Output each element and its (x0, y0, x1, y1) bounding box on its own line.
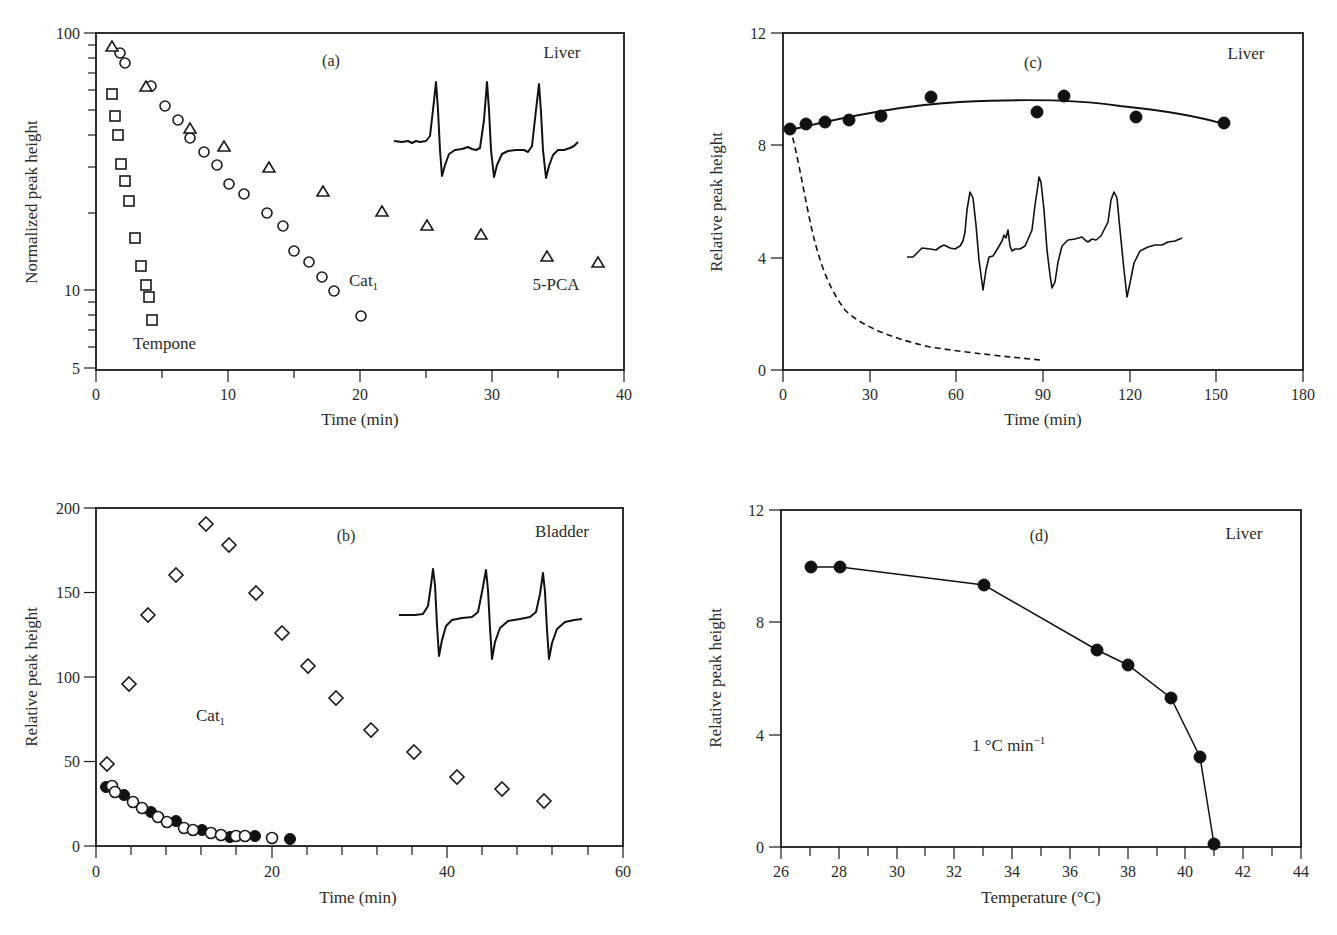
panel-d-xtick-38: 38 (1120, 863, 1136, 880)
cat1-label-a: Cat1 (349, 271, 378, 292)
panel-b-tissue-label: Bladder (535, 522, 589, 541)
panel-b-ytick-0: 0 (72, 838, 80, 855)
panel-d-xtick-36: 36 (1062, 863, 1078, 880)
panel-c-label: (c) (1024, 54, 1042, 72)
panel-d-xtick-32: 32 (946, 863, 962, 880)
panel-d-frame (781, 510, 1301, 847)
panel-b-ytick-150: 150 (56, 584, 80, 601)
panel-d-data-points (805, 561, 1220, 850)
panel-d-x-ticks (781, 847, 1301, 859)
panel-b-xtick-40: 40 (439, 863, 455, 880)
esr-spectrum-inset-b (399, 569, 582, 659)
panel-a-x-ticks (96, 370, 624, 382)
panel-d-xtick-44: 44 (1293, 863, 1309, 880)
pca-series (106, 41, 604, 267)
panel-c-ytick-12: 12 (750, 25, 766, 42)
panel-b-ytick-100: 100 (56, 669, 80, 686)
panel-d-y-axis-title: Relative peak height (706, 608, 725, 748)
panel-a-label: (a) (322, 52, 340, 70)
panel-b-ytick-50: 50 (64, 753, 80, 770)
panel-a-ytick-5: 5 (72, 360, 80, 377)
cat1-label-b: Cat1 (196, 706, 225, 727)
panel-c-fit-curve (790, 100, 1224, 130)
panel-c-data-points (784, 90, 1230, 135)
panel-d-xtick-42: 42 (1235, 863, 1251, 880)
panel-a-xtick-20: 20 (352, 386, 368, 403)
panel-a-xtick-10: 10 (220, 386, 236, 403)
panel-b-xtick-20: 20 (264, 863, 280, 880)
panel-a-ytick-100: 100 (56, 25, 80, 42)
panel-a-ytick-10: 10 (64, 282, 80, 299)
panel-a-xtick-0: 0 (92, 386, 100, 403)
panel-c-xtick-90: 90 (1035, 386, 1051, 403)
tempone-label: Tempone (133, 334, 196, 353)
panel-d: 12 8 4 0 26 28 30 32 34 36 38 40 42 44 T… (706, 502, 1309, 907)
panel-d-y-ticks (769, 510, 781, 847)
panel-c-xtick-120: 120 (1118, 386, 1142, 403)
panel-a-x-axis-title: Time (min) (321, 410, 398, 429)
panel-c: 12 8 4 0 0 30 60 90 120 150 180 Time (mi… (707, 25, 1315, 429)
panel-c-xtick-30: 30 (862, 386, 878, 403)
panel-a-y-ticks (84, 33, 96, 368)
panel-c-xtick-60: 60 (948, 386, 964, 403)
panel-d-ytick-4: 4 (756, 727, 764, 744)
panel-d-label: (d) (1030, 527, 1049, 545)
panel-b-y-axis-title: Relative peak height (22, 607, 41, 747)
panel-d-connecting-line (811, 567, 1214, 844)
panel-d-xtick-26: 26 (773, 863, 789, 880)
panel-d-xtick-34: 34 (1004, 863, 1020, 880)
panel-b-xtick-60: 60 (615, 863, 631, 880)
panel-c-y-ticks (771, 33, 783, 370)
panel-d-xtick-40: 40 (1177, 863, 1193, 880)
panel-a-tissue-label: Liver (544, 43, 581, 62)
panel-c-xtick-0: 0 (779, 386, 787, 403)
panel-a: 100 10 5 0 10 20 30 40 Time (min) Normal… (22, 25, 632, 429)
panel-b-x-ticks (96, 846, 623, 858)
diamond-series-b (100, 517, 551, 808)
panel-b-y-ticks (84, 508, 96, 846)
panel-c-x-axis-title: Time (min) (1004, 410, 1081, 429)
panel-d-tissue-label: Liver (1226, 524, 1263, 543)
panel-c-ytick-8: 8 (758, 137, 766, 154)
panel-a-xtick-30: 30 (484, 386, 500, 403)
panel-d-ytick-0: 0 (756, 839, 764, 856)
esr-spectrum-inset-c (907, 177, 1182, 297)
panel-c-ytick-4: 4 (758, 250, 766, 267)
filled-circle-series-b (101, 782, 296, 845)
panel-b-x-axis-title: Time (min) (319, 888, 396, 907)
panel-c-xtick-150: 150 (1204, 386, 1228, 403)
panel-b-xtick-0: 0 (92, 863, 100, 880)
panel-c-x-ticks (783, 370, 1303, 382)
panel-b: 200 150 100 50 0 0 20 40 60 Time (min) R… (22, 500, 631, 907)
panel-b-label: (b) (337, 527, 356, 545)
panel-c-decay-curve (790, 128, 1040, 360)
heating-rate-label: 1 °C min−1 (972, 734, 1045, 755)
panel-d-ytick-8: 8 (756, 614, 764, 631)
panel-c-y-axis-title: Relative peak height (707, 132, 726, 272)
panel-d-xtick-30: 30 (889, 863, 905, 880)
pca-label: 5-PCA (532, 275, 580, 294)
panel-d-ytick-12: 12 (748, 502, 764, 519)
panel-c-ytick-0: 0 (758, 362, 766, 379)
panel-d-x-axis-title: Temperature (°C) (981, 888, 1100, 907)
panel-a-y-axis-title: Normalized peak height (22, 120, 41, 284)
tempone-series (107, 89, 157, 325)
panel-c-tissue-label: Liver (1228, 44, 1265, 63)
esr-spectrum-inset-a (394, 82, 578, 178)
panel-d-xtick-28: 28 (831, 863, 847, 880)
panel-a-xtick-40: 40 (616, 386, 632, 403)
panel-b-ytick-200: 200 (56, 500, 80, 517)
cat1-series-a (115, 48, 366, 321)
panel-c-xtick-180: 180 (1291, 386, 1315, 403)
figure: 100 10 5 0 10 20 30 40 Time (min) Normal… (0, 0, 1337, 935)
